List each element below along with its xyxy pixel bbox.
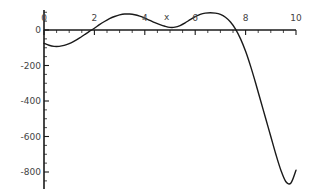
y-tick-label--600: -600 <box>21 132 41 141</box>
y-tick-label-0: 0 <box>35 26 41 35</box>
series-line-curve <box>44 13 296 184</box>
x-tick-label-6: 6 <box>192 14 198 23</box>
x-tick-label-10: 10 <box>290 14 301 23</box>
x-tick-label-8: 8 <box>243 14 249 23</box>
y-tick-label--400: -400 <box>21 97 41 106</box>
plot-canvas <box>0 0 313 192</box>
plot-figure: 02468100-200-400-600-800 x <box>0 0 313 192</box>
x-tick-label-4: 4 <box>142 14 148 23</box>
y-tick-label--200: -200 <box>21 61 41 70</box>
x-tick-label-0: 0 <box>41 14 47 23</box>
x-axis-label: x <box>164 12 169 22</box>
x-tick-label-2: 2 <box>92 14 98 23</box>
y-tick-label--800: -800 <box>21 168 41 177</box>
data-series-group <box>44 13 296 184</box>
